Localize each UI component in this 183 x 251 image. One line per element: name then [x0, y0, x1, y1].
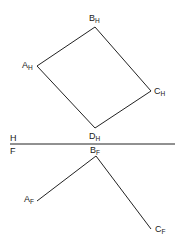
edge-bc-h — [95, 27, 151, 91]
edge-da-h — [37, 66, 95, 128]
edge-bc-f — [96, 156, 151, 229]
diagram-labels: HFAHBHCHDHAFBFCF — [10, 13, 166, 235]
point-label-c-h: CH — [154, 86, 166, 97]
edge-cd-h — [95, 91, 151, 128]
fold-label-f: F — [10, 146, 16, 156]
point-label-a-h: AH — [22, 60, 33, 71]
point-label-a-f: AF — [24, 194, 34, 205]
point-label-b-f: BF — [90, 145, 100, 156]
fold-label-h: H — [10, 133, 17, 143]
diagram-lines — [10, 27, 175, 229]
edge-ab-f — [37, 156, 96, 201]
point-label-b-h: BH — [89, 13, 100, 24]
projection-diagram: HFAHBHCHDHAFBFCF — [0, 0, 183, 251]
point-label-c-f: CF — [155, 224, 166, 235]
edge-ab-h — [37, 27, 95, 66]
point-label-d-h: DH — [89, 131, 101, 142]
